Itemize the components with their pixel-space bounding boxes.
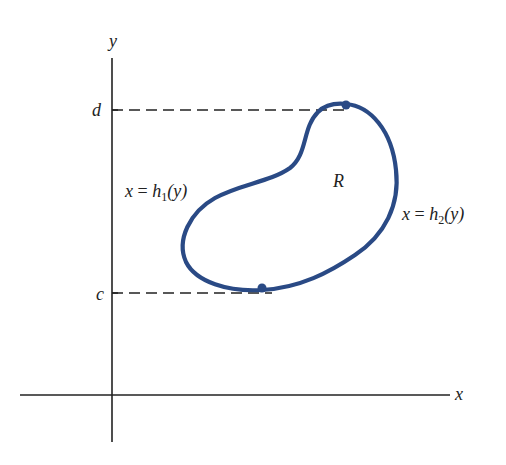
left-curve-lhs: x bbox=[125, 181, 133, 201]
right-curve-lhs: x bbox=[402, 204, 410, 224]
d-label: d bbox=[92, 101, 101, 119]
right-curve-eq: = bbox=[415, 204, 425, 224]
diagram-svg bbox=[0, 0, 506, 465]
right-curve-label: x = h2(y) bbox=[402, 205, 464, 226]
right-curve-arg: (y) bbox=[444, 204, 464, 224]
top-point-dot bbox=[342, 101, 351, 110]
right-curve-func: h bbox=[429, 204, 438, 224]
diagram-canvas: y x d c R x = h1(y) x = h2(y) bbox=[0, 0, 506, 465]
bottom-point-dot bbox=[258, 284, 267, 293]
left-curve-label: x = h1(y) bbox=[125, 182, 187, 203]
y-axis-label: y bbox=[109, 32, 117, 50]
region-label: R bbox=[333, 172, 344, 190]
c-label: c bbox=[96, 285, 104, 303]
region-boundary-curve bbox=[183, 104, 397, 291]
x-axis-label: x bbox=[455, 385, 463, 403]
left-curve-eq: = bbox=[138, 181, 148, 201]
left-curve-arg: (y) bbox=[167, 181, 187, 201]
left-curve-func: h bbox=[152, 181, 161, 201]
